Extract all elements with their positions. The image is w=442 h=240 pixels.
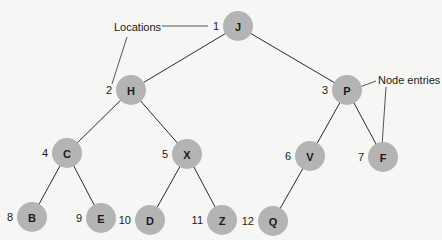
node-location-number: 1: [213, 20, 219, 32]
node-entry-label: F: [380, 152, 387, 164]
tree-edges: [32, 26, 383, 221]
node-entry-label: X: [183, 149, 191, 161]
binary-tree-diagram: Locations Node entries J1H2P3C4X5V6F7B8E…: [0, 0, 442, 240]
edge-1-3: [238, 26, 347, 90]
node-entries-annotation: Node entries: [357, 74, 441, 146]
node-location-number: 11: [192, 214, 203, 226]
tree-node-f: F7: [358, 142, 398, 172]
node-entry-label: C: [63, 148, 71, 160]
node-location-number: 10: [119, 214, 131, 226]
node-entry-label: D: [146, 215, 154, 227]
node-location-number: 7: [358, 151, 364, 163]
node-entry-label: J: [235, 21, 241, 33]
node-location-number: 12: [242, 215, 254, 227]
tree-node-e: E9: [76, 203, 116, 233]
tree-node-b: B8: [7, 202, 47, 232]
tree-node-d: D10: [119, 205, 165, 235]
node-location-number: 6: [285, 150, 291, 162]
locations-label: Locations: [114, 21, 162, 33]
node-location-number: 3: [322, 84, 328, 96]
node-location-number: 5: [162, 148, 168, 160]
node-location-number: 8: [7, 211, 13, 223]
node-entry-label: V: [306, 151, 314, 163]
node-location-number: 9: [76, 212, 82, 224]
node-entries-leader-to-f: [382, 87, 386, 146]
tree-node-c: C4: [42, 138, 82, 168]
edge-1-2: [131, 26, 238, 90]
node-location-number: 2: [106, 84, 112, 96]
node-location-number: 4: [42, 147, 48, 159]
tree-node-q: Q12: [242, 206, 288, 236]
tree-node-z: Z11: [192, 205, 237, 235]
node-entry-label: P: [343, 85, 350, 97]
tree-node-x: X5: [162, 139, 202, 169]
node-entry-label: B: [28, 212, 36, 224]
tree-node-v: V6: [285, 141, 325, 171]
tree-nodes: J1H2P3C4X5V6F7B8E9D10Z11Q12: [7, 11, 398, 236]
tree-node-p: P3: [322, 75, 362, 105]
node-entry-label: H: [127, 85, 135, 97]
tree-node-h: H2: [106, 75, 146, 105]
tree-node-j: J1: [213, 11, 253, 41]
node-entries-label: Node entries: [378, 74, 441, 86]
node-entry-label: Z: [219, 215, 226, 227]
node-entry-label: E: [97, 213, 104, 225]
node-entry-label: Q: [269, 216, 278, 228]
